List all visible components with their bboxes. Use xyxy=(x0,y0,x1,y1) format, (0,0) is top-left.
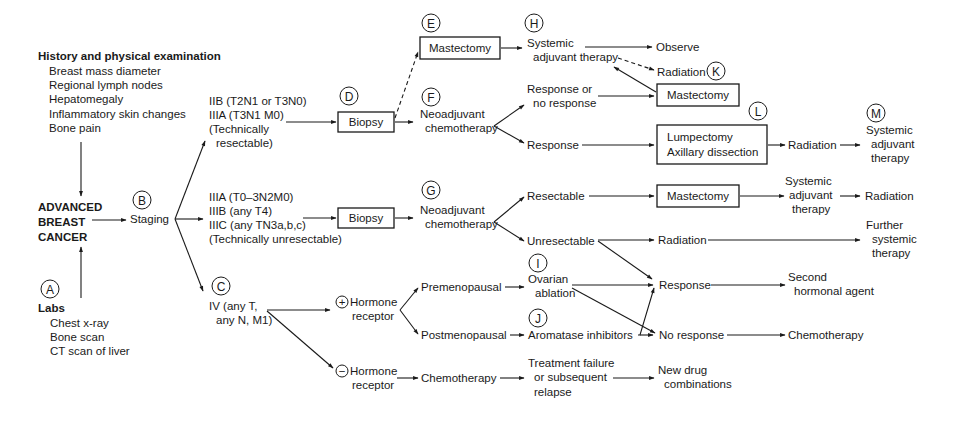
observe-node: Observe xyxy=(656,41,699,53)
stage-line: resectable) xyxy=(216,137,273,149)
node-line: Further xyxy=(866,219,903,231)
node-line: combinations xyxy=(664,378,732,390)
node-line: ablation xyxy=(535,287,575,299)
edge-neoadj-to-resp-or-no xyxy=(494,105,524,126)
edge-staging-to-stage-iv xyxy=(175,219,203,291)
node-line: Second xyxy=(788,271,827,283)
labs-node: Labs Chest x-ray Bone scan CT scan of li… xyxy=(38,302,130,357)
ovarian-ablation-node: Ovarian ablation xyxy=(528,273,575,299)
step-label-g: G xyxy=(422,181,440,199)
step-label-b: B xyxy=(133,191,151,209)
step-label-a: A xyxy=(41,280,59,298)
step-label-j: J xyxy=(529,309,547,327)
abc-line: ADVANCED xyxy=(38,201,102,213)
step-letter: J xyxy=(535,312,541,326)
mastectomy-box-g: Mastectomy xyxy=(657,185,739,207)
edge-biopsy-to-mastectomy-dashed xyxy=(395,52,418,118)
systemic-adjuvant-g-node: Systemic adjuvant therapy xyxy=(785,175,833,215)
response-f-node: Response xyxy=(527,139,579,151)
node-line: receptor xyxy=(352,310,394,322)
node-line: Hormone xyxy=(350,296,397,308)
mastectomy-box-e: Mastectomy xyxy=(420,37,500,59)
radiation-u-node: Radiation xyxy=(658,234,707,246)
biopsy-box-resectable: Biopsy xyxy=(338,112,394,132)
edge-hr-to-postmenopausal xyxy=(400,310,418,334)
edge-unresectable-to-response xyxy=(598,241,652,279)
stage-iv-node: IV (any T, any N, M1) xyxy=(209,300,272,326)
edge-stage-iv-to-hr-neg xyxy=(267,311,333,368)
neoadjuvant-f-node: Neoadjuvant chemotherapy xyxy=(420,108,498,134)
step-label-f: F xyxy=(422,88,440,106)
history-item: Hepatomegaly xyxy=(49,93,123,105)
step-label-d: D xyxy=(340,87,358,105)
labs-item: CT scan of liver xyxy=(50,345,130,357)
step-letter: I xyxy=(536,257,539,271)
history-item: Regional lymph nodes xyxy=(49,79,163,91)
history-item: Bone pain xyxy=(49,122,101,134)
node-line: systemic xyxy=(872,233,917,245)
treatment-failure-node: Treatment failure or subsequent relapse xyxy=(528,357,615,398)
stage-line: any N, M1) xyxy=(216,314,272,326)
lumpectomy-line: Lumpectomy xyxy=(667,131,733,143)
node-line: Treatment failure xyxy=(528,357,615,369)
biopsy-label: Biopsy xyxy=(349,116,384,128)
step-letter: B xyxy=(138,194,146,208)
postmenopausal-node: Postmenopausal xyxy=(421,329,507,341)
sign: − xyxy=(339,365,346,377)
history-item: Inflammatory skin changes xyxy=(49,108,186,120)
node-line: no response xyxy=(533,97,596,109)
lumpectomy-line: Axillary dissection xyxy=(667,146,758,158)
node-line: Neoadjuvant xyxy=(420,108,485,120)
node-line: Systemic xyxy=(527,37,574,49)
labs-item: Chest x-ray xyxy=(50,317,109,329)
biopsy-box-unresectable: Biopsy xyxy=(338,208,394,228)
step-letter: C xyxy=(217,280,226,294)
node-line: chemotherapy xyxy=(425,218,498,230)
node-line: Systemic xyxy=(866,124,913,136)
response-or-no-response-node: Response or no response xyxy=(527,83,596,109)
lumpectomy-box: Lumpectomy Axillary dissection xyxy=(657,125,767,164)
labs-title: Labs xyxy=(38,302,65,314)
stage-line: IIIA (T3N1 M0) xyxy=(209,109,284,121)
step-letter: G xyxy=(426,184,435,198)
stage-line: IIIC (any TN3a,b,c) xyxy=(209,219,306,231)
node-line: Ovarian xyxy=(528,273,568,285)
step-label-i: I xyxy=(529,254,547,272)
node-line: Systemic xyxy=(785,175,832,187)
node-line: therapy xyxy=(871,152,910,164)
step-label-l: L xyxy=(749,102,767,120)
biopsy-label: Biopsy xyxy=(349,212,384,224)
advanced-breast-cancer-node: ADVANCED BREAST CANCER xyxy=(38,201,102,243)
history-item: Breast mass diameter xyxy=(49,65,161,77)
history-title: History and physical examination xyxy=(38,50,221,62)
labs-item: Bone scan xyxy=(50,331,104,343)
node-line: relapse xyxy=(534,386,572,398)
edge-neoadj-to-response xyxy=(494,126,524,143)
systemic-adjuvant-m-node: Systemic adjuvant therapy xyxy=(866,124,915,164)
step-letter: K xyxy=(712,65,720,79)
neoadjuvant-g-node: Neoadjuvant chemotherapy xyxy=(420,204,498,230)
response-h-node: Response xyxy=(659,279,711,291)
hormone-receptor-positive-node: + Hormone receptor xyxy=(336,296,397,322)
mastectomy-label: Mastectomy xyxy=(429,42,491,54)
mastectomy-label: Mastectomy xyxy=(667,190,729,202)
edge-hr-to-premenopausal xyxy=(400,288,418,310)
chemotherapy-neg-node: Chemotherapy xyxy=(421,372,497,384)
step-letter: H xyxy=(530,17,539,31)
node-line: hormonal agent xyxy=(794,285,875,297)
node-line: receptor xyxy=(352,379,394,391)
chemotherapy-after-node: Chemotherapy xyxy=(788,329,864,341)
radiation-g-node: Radiation xyxy=(865,190,914,202)
stage-line: IIB (T2N1 or T3N0) xyxy=(209,95,307,107)
stage-line: (Technically unresectable) xyxy=(209,233,342,245)
node-line: adjuvant therapy xyxy=(533,51,618,63)
node-line: or subsequent xyxy=(534,371,608,383)
node-line: therapy xyxy=(792,203,831,215)
stage-line: IV (any T, xyxy=(209,300,257,312)
step-label-m: M xyxy=(867,104,885,122)
mastectomy-box-k: Mastectomy xyxy=(657,84,739,106)
step-label-e: E xyxy=(422,14,440,32)
edge-staging-to-resectable xyxy=(175,141,205,219)
step-label-k: K xyxy=(707,62,725,80)
abc-line: CANCER xyxy=(38,231,88,243)
